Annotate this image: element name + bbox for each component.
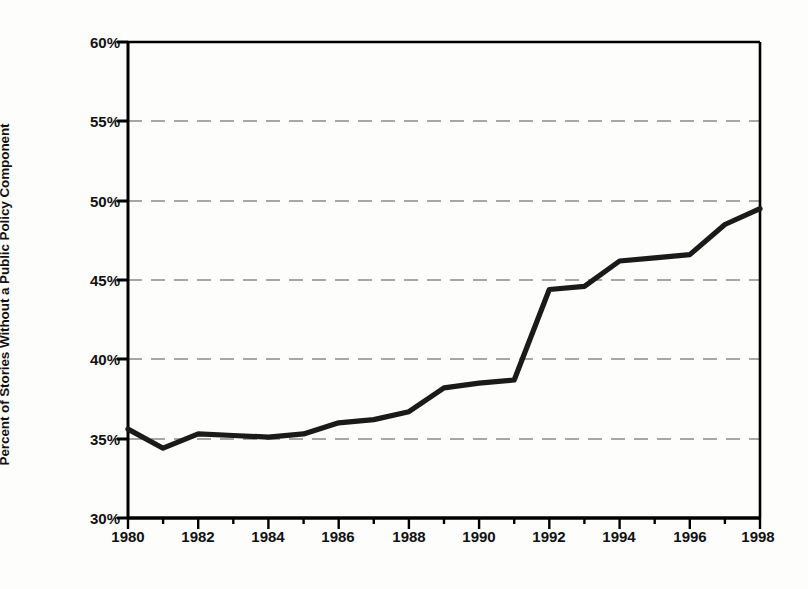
x-tick-label-1988: 1988 [392, 528, 425, 545]
gridlines [128, 121, 760, 439]
x-tick-label-1980: 1980 [111, 528, 144, 545]
x-tick-label-1992: 1992 [532, 528, 565, 545]
plot-area [0, 0, 808, 589]
x-tick-label-1990: 1990 [462, 528, 495, 545]
x-tick-label-1982: 1982 [181, 528, 214, 545]
y-axis-ticks [117, 42, 128, 518]
x-tick-label-1986: 1986 [321, 528, 354, 545]
data-series-line [128, 209, 760, 449]
x-axis-tick-labels: 1980 1982 1984 1986 1988 1990 1992 1994 … [0, 528, 808, 558]
x-tick-label-1998: 1998 [741, 528, 774, 545]
x-tick-label-1984: 1984 [251, 528, 284, 545]
x-tick-label-1994: 1994 [602, 528, 635, 545]
chart-container: Percent of Stories Without a Public Poli… [0, 0, 808, 589]
x-tick-label-1996: 1996 [673, 528, 706, 545]
